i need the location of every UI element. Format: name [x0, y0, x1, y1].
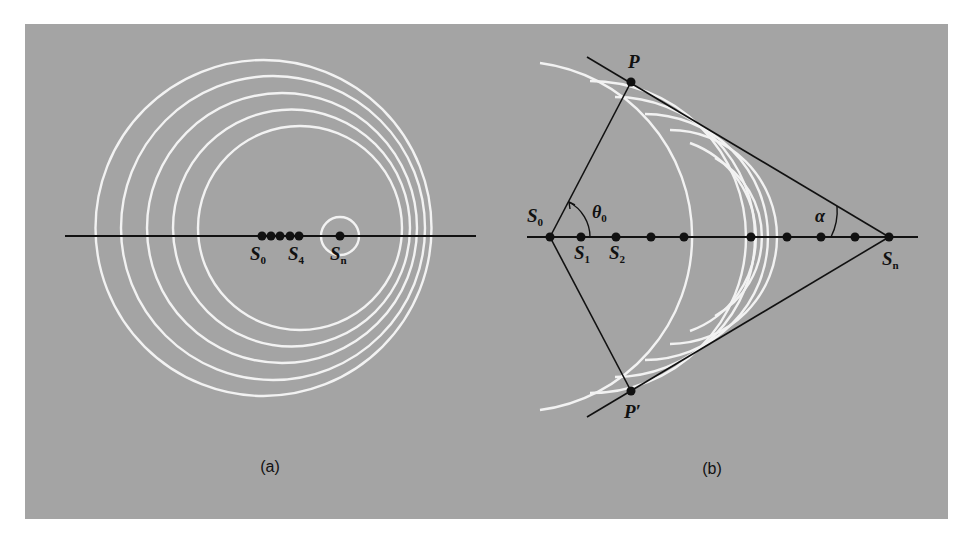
label-s2-b: S2	[609, 242, 626, 265]
source-dot	[286, 232, 295, 241]
source-dot	[783, 233, 792, 242]
source-dot	[851, 233, 860, 242]
theta0-arc	[569, 202, 590, 237]
label-theta0: θ0	[592, 202, 607, 224]
source-dot	[647, 233, 656, 242]
figure-canvas: S0 S4 Sn (a)	[25, 24, 948, 519]
source-dot	[546, 233, 555, 242]
label-alpha: α	[815, 206, 826, 226]
label-s1-b: S1	[574, 242, 590, 265]
source-dot	[336, 232, 345, 241]
wavefront-figure: S0 S4 Sn (a)	[25, 24, 948, 519]
label-pprime: P′	[623, 401, 641, 422]
source-dot	[258, 232, 267, 241]
label-s0-b: S0	[527, 205, 544, 228]
source-dot	[577, 233, 586, 242]
label-s4-a: S4	[288, 243, 305, 266]
wavefront-circle	[198, 126, 402, 330]
source-dot	[295, 232, 304, 241]
wavefront-circle	[147, 93, 417, 363]
source-dot	[885, 233, 894, 242]
point-p-dot	[627, 78, 636, 87]
source-dot	[817, 233, 826, 242]
caption-a: (a)	[260, 458, 280, 475]
source-dot	[612, 233, 621, 242]
panel-b: P P′ S0 S1 S2 Sn θ0 α (b)	[527, 51, 918, 477]
source-dot	[267, 232, 276, 241]
panel-a: S0 S4 Sn (a)	[65, 60, 476, 475]
wavefronts-a	[96, 60, 432, 396]
label-p: P	[627, 51, 640, 72]
alpha-arc	[831, 206, 837, 237]
point-pprime-dot	[627, 387, 636, 396]
source-dot	[276, 232, 285, 241]
wavefront-circle	[173, 110, 410, 347]
label-sn-a: Sn	[330, 243, 347, 266]
source-dot	[680, 233, 689, 242]
source-dot	[747, 233, 756, 242]
label-sn-b: Sn	[882, 248, 899, 271]
label-s0-a: S0	[250, 243, 267, 266]
wavefront-circle	[121, 76, 425, 380]
caption-b: (b)	[702, 460, 722, 477]
ray-s0-p	[550, 82, 631, 237]
